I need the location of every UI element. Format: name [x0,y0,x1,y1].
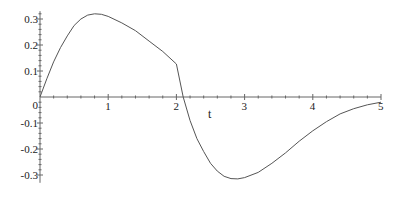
y-tick-label: -0.2 [21,143,38,155]
x-axis-label: t [208,107,212,121]
x-tick-label: 4 [310,100,316,112]
axes [37,11,381,183]
x-tick-label: 1 [105,100,111,112]
plot-canvas: 123450.30.20.10-0.1-0.2-0.3 t [0,0,406,197]
y-tick-label: 0.1 [24,65,38,77]
x-tick-label: 3 [242,100,248,112]
y-tick-label: -0.1 [21,117,38,129]
y-tick-label: 0.2 [24,39,38,51]
x-tick-label: 5 [378,100,384,112]
y-tick-label: -0.3 [21,169,39,181]
x-tick-label: 2 [173,100,179,112]
data-curve [40,14,381,179]
y-tick-label: 0.3 [24,13,38,25]
y-tick-label: 0 [33,99,39,111]
